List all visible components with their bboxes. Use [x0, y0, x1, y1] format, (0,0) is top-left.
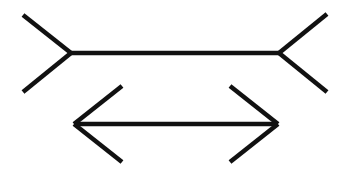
- fins-out-line: [23, 14, 327, 92]
- arrowheads-in-line: [74, 86, 278, 162]
- left-fin-line: [74, 86, 122, 124]
- illusion-drawing: [0, 0, 345, 177]
- right-fin-line: [230, 124, 278, 162]
- left-fin-line: [23, 53, 71, 92]
- muller-lyer-illusion-figure: [0, 0, 345, 177]
- right-fin-line: [279, 14, 327, 53]
- left-fin-line: [23, 15, 71, 53]
- right-fin-line: [230, 86, 278, 124]
- left-fin-line: [74, 124, 122, 162]
- right-fin-line: [279, 53, 327, 92]
